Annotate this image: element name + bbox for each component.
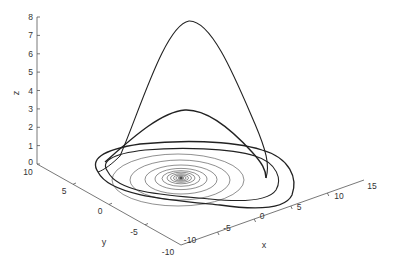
svg-text:5: 5 — [297, 202, 302, 212]
spiral-rings — [112, 154, 244, 206]
svg-text:5: 5 — [28, 67, 33, 77]
svg-text:-5: -5 — [223, 223, 231, 233]
limit-cycle-lower-arch — [105, 110, 266, 178]
y-tick-labels: 10 5 0 -5 -10 — [23, 167, 174, 257]
x-tick-labels: -10 -5 0 5 10 15 — [184, 181, 377, 245]
svg-text:8: 8 — [28, 12, 33, 22]
svg-text:3: 3 — [28, 104, 33, 114]
x-axis-line — [181, 180, 364, 245]
trajectory-series — [95, 21, 293, 208]
x-ticks — [218, 193, 329, 235]
z-tick-labels: 8 7 6 5 4 3 2 1 0 — [28, 12, 33, 167]
svg-text:0: 0 — [98, 206, 103, 216]
y-axis-label: y — [102, 237, 107, 247]
svg-text:-10: -10 — [184, 235, 197, 245]
svg-text:15: 15 — [367, 181, 377, 191]
svg-text:0: 0 — [260, 211, 265, 221]
svg-text:-5: -5 — [130, 227, 138, 237]
svg-text:6: 6 — [28, 49, 33, 59]
svg-text:-10: -10 — [162, 247, 175, 257]
z-ticks — [37, 17, 40, 164]
svg-text:10: 10 — [23, 167, 33, 177]
svg-text:7: 7 — [28, 30, 33, 40]
svg-text:4: 4 — [28, 86, 33, 96]
svg-text:0: 0 — [28, 157, 33, 167]
axes — [37, 17, 364, 245]
x-axis-label: x — [262, 240, 267, 250]
svg-text:5: 5 — [62, 186, 67, 196]
z-axis-label: z — [11, 90, 21, 95]
svg-text:2: 2 — [28, 122, 33, 132]
svg-text:10: 10 — [334, 191, 344, 201]
3d-line-plot: 8 7 6 5 4 3 2 1 0 z 10 5 0 -5 -10 y -10 … — [0, 0, 396, 257]
svg-text:1: 1 — [28, 141, 33, 151]
